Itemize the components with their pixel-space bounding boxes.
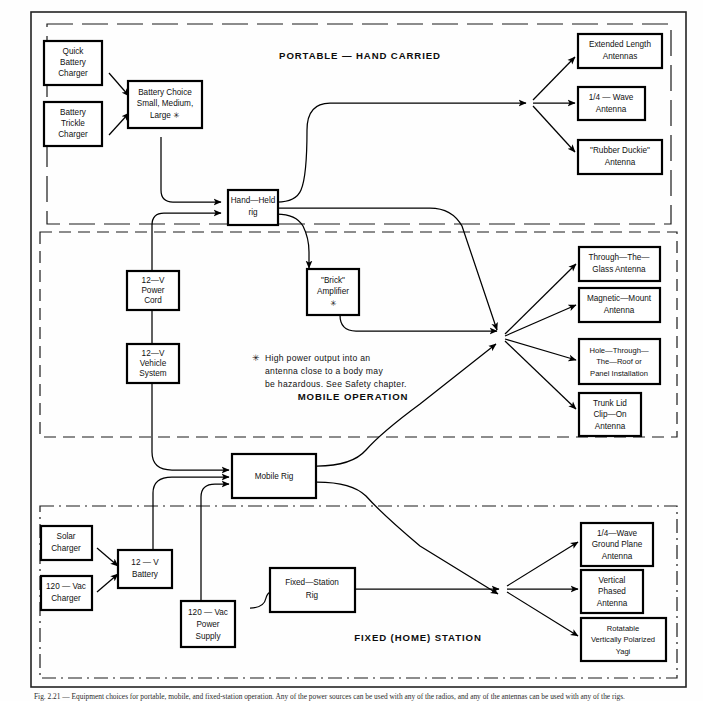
node-label-line: Trickle xyxy=(61,119,85,128)
node-label-line: rig xyxy=(248,208,258,217)
figure-caption: Fig. 2.21 — Equipment choices for portab… xyxy=(34,692,625,701)
node-12v-vehicle-system[interactable]: 12—V Vehicle System xyxy=(127,344,179,383)
node-label-line: Quick xyxy=(63,47,85,56)
node-label-line: Fixed—Station xyxy=(285,578,339,587)
node-label-line: Power xyxy=(196,620,219,629)
node-label-line: Antennas xyxy=(603,52,638,61)
node-label-line: Solar xyxy=(56,532,75,541)
node-label-line: Phased xyxy=(598,587,626,596)
link-solar-charger-to-battery12v xyxy=(97,548,118,566)
link-mobile-hub-to-magnetic-mount xyxy=(505,305,576,336)
node-label-line: Antenna xyxy=(604,306,635,315)
node-label-line: "Rubber Duckie" xyxy=(590,146,650,155)
link-handheld-to-brick-amp xyxy=(277,214,309,268)
node-quick-battery-charger[interactable]: Quick Battery Charger xyxy=(44,41,102,85)
node-fixed-station-rig[interactable]: Fixed—Station Rig xyxy=(270,568,355,612)
node-label-line: Charger xyxy=(58,130,88,139)
node-label-line: Vehicle xyxy=(140,359,167,368)
node-mobile-rig[interactable]: Mobile Rig xyxy=(232,454,316,498)
node-label-line: Antenna xyxy=(595,422,626,431)
node-label-line: Mobile Rig xyxy=(255,472,294,481)
node-12v-battery[interactable]: 12 — V Battery xyxy=(118,550,172,588)
link-fixed-hub-to-rotatable-yagi xyxy=(507,592,578,636)
node-battery-trickle-charger[interactable]: Battery Trickle Charger xyxy=(44,102,102,146)
link-portable-hub-to-rubber-duckie xyxy=(533,106,575,152)
section-title-mobile: MOBILE OPERATION xyxy=(298,391,409,402)
node-label-line: Battery xyxy=(132,570,159,579)
node-label-line: Amplifier xyxy=(317,287,349,296)
link-battery-choice-to-handheld xyxy=(161,137,221,202)
node-vertical-phased-antenna[interactable]: Vertical Phased Antenna xyxy=(581,570,643,613)
section-title-fixed: FIXED (HOME) STATION xyxy=(354,632,481,643)
node-label-line: Antenna xyxy=(596,105,627,114)
node-label-line: Antenna xyxy=(597,599,628,608)
node-label-line: "Brick" xyxy=(321,276,345,285)
node-magnetic-mount-antenna[interactable]: Magnetic—Mount Antenna xyxy=(579,288,660,322)
node-label-line: Battery xyxy=(60,108,87,117)
link-quick-charger-to-battery-choice xyxy=(109,73,129,96)
link-trickle-charger-to-battery-choice xyxy=(109,113,129,135)
node-label-line: Antenna xyxy=(602,552,633,561)
node-label-line: The—Roof or xyxy=(596,357,642,366)
node-label-line: Rig xyxy=(306,591,319,600)
node-label-line: Magnetic—Mount xyxy=(587,294,652,303)
node-label-line: Charger xyxy=(51,544,81,553)
node-120vac-power-supply[interactable]: 120 — Vac Power Supply xyxy=(181,601,235,647)
node-hole-through-the-roof[interactable]: Hole—Through— The—Roof or Panel Installa… xyxy=(579,339,660,384)
link-mobile-hub-to-through-glass xyxy=(505,264,576,334)
node-label-line: System xyxy=(139,369,166,378)
node-rubber-duckie-antenna[interactable]: "Rubber Duckie" Antenna xyxy=(578,140,662,174)
node-battery-choice[interactable]: Battery Choice Small, Medium, Large ✳ xyxy=(128,81,202,128)
node-through-the-glass-antenna[interactable]: Through—The— Glass Antenna xyxy=(579,247,660,281)
link-fixed-hub-to-ground-plane xyxy=(507,542,578,586)
node-label-line: Yagi xyxy=(616,647,631,656)
node-label-line: 12—V xyxy=(142,276,165,285)
node-label-line: Clip—On xyxy=(593,410,627,419)
node-label-line: ✳ xyxy=(330,299,337,308)
node-label-line: Antenna xyxy=(605,158,636,167)
node-rotatable-vertically-polarized-yagi[interactable]: Rotatable Vertically Polarized Yagi xyxy=(581,618,666,661)
link-mobile-hub-to-hole-through-roof xyxy=(505,339,576,360)
node-label-line: Rotatable xyxy=(607,624,640,633)
node-label-line: Panel Installation xyxy=(590,369,648,378)
figure-root: PORTABLE — HAND CARRIED MOBILE OPERATION… xyxy=(0,0,703,701)
node-label-line: 120 — Vac xyxy=(46,582,86,591)
node-label-line: Supply xyxy=(195,632,221,641)
node-quarter-wave-ground-plane-antenna[interactable]: 1/4—Wave Ground Plane Antenna xyxy=(581,523,653,566)
node-quarter-wave-antenna[interactable]: 1/4 — Wave Antenna xyxy=(578,87,645,120)
node-label-line: 120 — Vac xyxy=(188,608,228,617)
hazard-note-symbol: ✳ xyxy=(252,353,260,363)
node-label-line: Hole—Through— xyxy=(589,346,648,355)
section-title-portable: PORTABLE — HAND CARRIED xyxy=(279,50,441,61)
link-vehicle-system-to-mobile-rig xyxy=(152,383,229,470)
link-vac-charger-to-battery12v xyxy=(97,574,118,592)
link-brick-amp-to-mobile-hub xyxy=(340,315,497,331)
node-extended-length-antennas[interactable]: Extended Length Antennas xyxy=(578,34,662,68)
link-power-cord-to-handheld xyxy=(152,213,221,272)
link-mobile-hub-to-trunk-lid xyxy=(505,341,576,409)
node-120vac-charger[interactable]: 120 — Vac Charger xyxy=(41,576,92,610)
node-label-line: Battery xyxy=(60,58,87,67)
equipment-choices-diagram: PORTABLE — HAND CARRIED MOBILE OPERATION… xyxy=(0,0,703,701)
node-brick-amplifier[interactable]: "Brick" Amplifier ✳ xyxy=(307,269,359,315)
node-label-line: Charger xyxy=(51,594,81,603)
node-label-line: Cord xyxy=(144,296,162,305)
node-label-line: 12 — V xyxy=(131,558,159,567)
node-12v-power-cord[interactable]: 12—V Power Cord xyxy=(127,271,179,310)
node-label-line: 12—V xyxy=(142,349,165,358)
node-label-line: Vertical xyxy=(599,576,626,585)
node-solar-charger[interactable]: Solar Charger xyxy=(41,526,92,560)
node-label-line: Vertically Polarized xyxy=(591,635,655,644)
node-label-line: Large ✳ xyxy=(150,111,180,120)
node-label-line: Small, Medium, xyxy=(137,99,193,108)
link-power-supply-to-mobile-rig xyxy=(201,484,229,602)
link-battery12v-to-mobile-rig xyxy=(153,477,229,552)
node-label-line: Glass Antenna xyxy=(592,265,646,274)
node-label-line: Extended Length xyxy=(589,40,651,49)
hazard-note-line: antenna close to a body may xyxy=(265,366,383,376)
node-trunk-lid-clip-on-antenna[interactable]: Trunk Lid Clip—On Antenna xyxy=(579,393,641,436)
hazard-note-line: High power output into an xyxy=(265,353,370,363)
node-label-line: 1/4—Wave xyxy=(597,529,638,538)
hazard-note: ✳ High power output into an antenna clos… xyxy=(252,353,407,389)
node-hand-held-rig[interactable]: Hand—Held rig xyxy=(228,190,278,225)
